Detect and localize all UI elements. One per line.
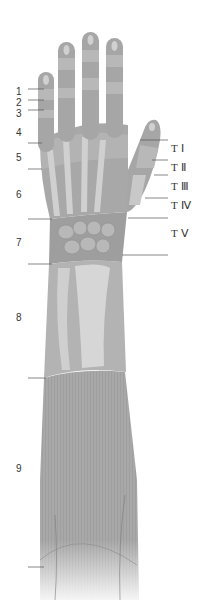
zone-label-4: 4 <box>16 128 22 138</box>
zone-label-7: 7 <box>16 238 22 248</box>
zone-label-2: 2 <box>16 98 22 108</box>
thumb-zone-label-2: T Ⅱ <box>171 162 187 173</box>
thumb-zone-label-5: T Ⅴ <box>171 228 190 239</box>
zone-label-3: 3 <box>16 109 22 119</box>
zone-label-1: 1 <box>16 87 22 97</box>
anatomy-illustration <box>0 0 210 607</box>
hand-forearm-diagram: 1 2 3 4 5 6 7 8 9 T Ⅰ T Ⅱ T Ⅲ T Ⅳ T Ⅴ <box>0 0 210 607</box>
zone-label-9: 9 <box>16 464 22 474</box>
thumb-zone-label-1: T Ⅰ <box>171 143 185 154</box>
zone-label-5: 5 <box>16 153 22 163</box>
zone-label-6: 6 <box>16 190 22 200</box>
thumb-zone-label-3: T Ⅲ <box>171 181 190 192</box>
thumb-zone-label-4: T Ⅳ <box>171 200 192 211</box>
zone-label-8: 8 <box>16 313 22 323</box>
